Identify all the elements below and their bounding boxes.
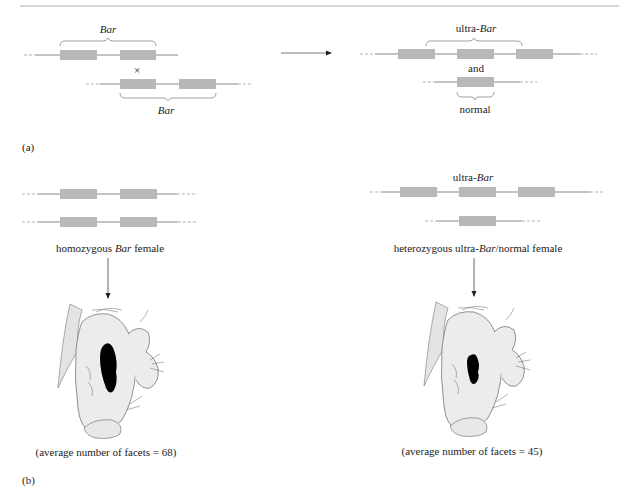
facets-result-heterozygous: (average number of facets = 45) — [402, 445, 543, 458]
fly-head-ultra-bar — [424, 302, 530, 437]
gene-segment — [120, 50, 156, 60]
gene-segment — [457, 77, 494, 87]
heterozygous-chromosomes — [370, 187, 603, 226]
gene-segment — [60, 217, 97, 227]
panel-b: homozygous Bar female (average number of… — [22, 171, 603, 487]
gene-segment — [120, 189, 157, 199]
homozygous-caption: homozygous Bar female — [56, 242, 164, 254]
gene-segment — [60, 189, 97, 199]
ultra-bar-chromosome — [360, 49, 597, 59]
gene-segment — [518, 187, 555, 197]
ultra-bar-label: ultra-Bar — [456, 22, 497, 34]
panel-b-label: (b) — [22, 474, 35, 487]
gene-segment — [179, 79, 216, 89]
bar-duplication-diagram: Bar × Bar ultra-Bar and — [0, 0, 619, 498]
gene-segment — [120, 79, 156, 89]
normal-label: normal — [459, 103, 490, 115]
homozygous-bar-chromosomes — [22, 189, 196, 227]
fly-head-bar — [58, 304, 164, 439]
brace-icon — [120, 93, 216, 101]
and-label: and — [468, 62, 484, 74]
gene-segment — [60, 50, 97, 60]
ultra-bar-label-b: ultra-Bar — [453, 171, 494, 183]
brace-icon — [60, 38, 156, 46]
normal-chromosome — [423, 77, 537, 87]
gene-segment — [398, 49, 435, 59]
panel-a: Bar × Bar ultra-Bar and — [22, 22, 597, 154]
parent-chromosome-top — [24, 50, 178, 60]
cross-symbol: × — [134, 64, 140, 76]
parent-chromosome-bottom — [86, 79, 252, 89]
gene-segment — [516, 49, 553, 59]
panel-a-label: (a) — [22, 141, 35, 154]
gene-segment — [459, 187, 496, 197]
gene-segment — [457, 49, 494, 59]
heterozygous-caption: heterozygous ultra-Bar/normal female — [394, 242, 563, 254]
bar-label-top: Bar — [100, 23, 117, 35]
gene-segment — [400, 187, 437, 197]
gene-segment — [459, 216, 496, 226]
brace-icon — [457, 92, 494, 100]
facets-result-homozygous: (average number of facets = 68) — [36, 446, 177, 459]
bar-label-bottom: Bar — [158, 104, 175, 116]
gene-segment — [120, 217, 157, 227]
brace-icon — [426, 38, 522, 46]
